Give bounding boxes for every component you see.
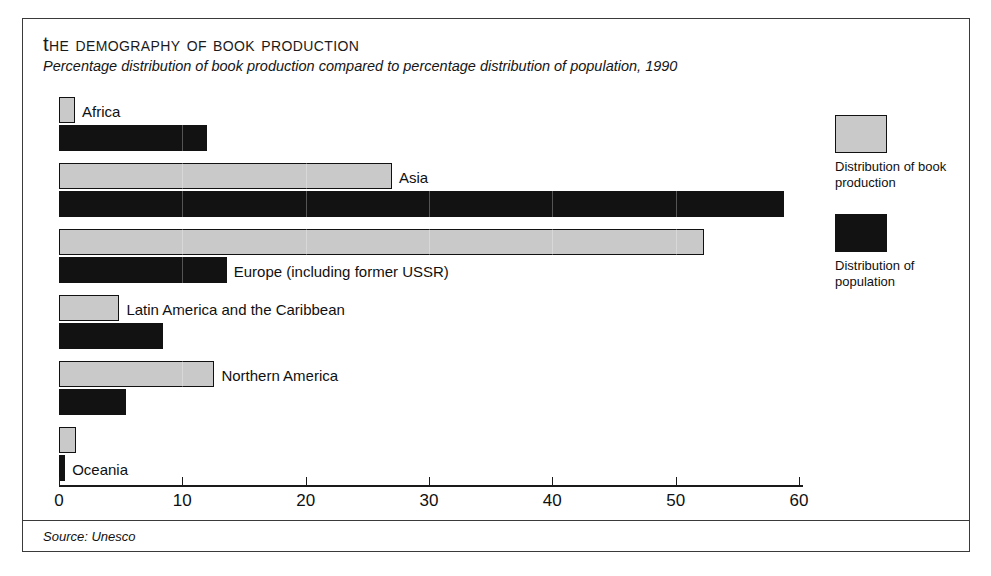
legend-label-population: Distribution of population — [835, 258, 955, 289]
chart-figure: The Demography of Book Production Percen… — [22, 18, 970, 552]
x-axis-tick-label: 30 — [420, 491, 439, 511]
chart-title: The Demography of Book Production — [43, 33, 943, 55]
bar-book-production — [59, 361, 214, 387]
bar-category-label: Africa — [82, 104, 120, 119]
legend-item-book-production: Distribution of book production — [835, 115, 955, 190]
chart-legend: Distribution of book production Distribu… — [835, 115, 955, 313]
bar-book-production — [59, 163, 392, 189]
x-axis-tick-label: 50 — [666, 491, 685, 511]
gridline — [306, 93, 307, 485]
legend-label-book-production: Distribution of book production — [835, 159, 955, 190]
footer-divider — [23, 520, 969, 521]
plot-area: AfricaAsiaEurope (including former USSR)… — [59, 93, 799, 485]
bar-population — [59, 125, 207, 151]
x-axis-line — [59, 485, 803, 487]
legend-item-population: Distribution of population — [835, 214, 955, 289]
x-axis-tick-label: 20 — [296, 491, 315, 511]
bar-book-production — [59, 229, 704, 255]
bar-population — [59, 389, 126, 415]
legend-swatch-population — [835, 214, 887, 252]
legend-swatch-book-production — [835, 115, 887, 153]
bar-population — [59, 323, 163, 349]
bar-population — [59, 257, 227, 283]
gridline — [552, 93, 553, 485]
bar-book-production — [59, 427, 76, 453]
gridline — [676, 93, 677, 485]
x-axis-tick — [182, 477, 183, 486]
gridline — [182, 93, 183, 485]
x-axis-tick — [59, 477, 60, 486]
x-axis-tick-label: 0 — [54, 491, 63, 511]
bar-book-production — [59, 295, 119, 321]
bar-category-label: Oceania — [72, 462, 128, 477]
x-axis-tick — [429, 477, 430, 486]
x-axis-tick — [676, 477, 677, 486]
bar-book-production — [59, 97, 75, 123]
gridline — [429, 93, 430, 485]
x-axis-tick-label: 40 — [543, 491, 562, 511]
x-axis-tick-label: 60 — [790, 491, 809, 511]
bar-category-label: Latin America and the Caribbean — [126, 302, 344, 317]
x-axis-tick-label: 10 — [173, 491, 192, 511]
bar-category-label: Europe (including former USSR) — [234, 264, 449, 279]
x-axis-tick — [799, 477, 800, 486]
bar-category-label: Asia — [399, 170, 428, 185]
x-axis-tick — [552, 477, 553, 486]
chart-header: The Demography of Book Production Percen… — [43, 33, 943, 74]
x-axis-tick — [306, 477, 307, 486]
bar-category-label: Northern America — [221, 368, 338, 383]
source-note: Source: Unesco — [43, 529, 136, 544]
chart-subtitle: Percentage distribution of book producti… — [43, 58, 943, 75]
